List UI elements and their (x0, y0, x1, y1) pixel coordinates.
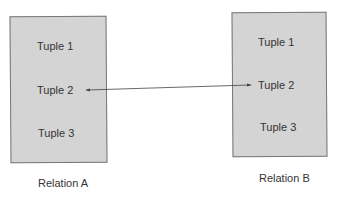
tuple-link-arrow-icon (0, 0, 339, 197)
